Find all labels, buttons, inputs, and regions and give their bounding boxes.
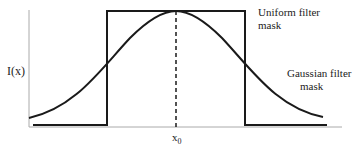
gaussian-label-line1: Gaussian filter bbox=[287, 67, 352, 79]
gaussian-label-line2: mask bbox=[300, 80, 324, 92]
uniform-filter-mask-curve bbox=[33, 11, 327, 125]
uniform-label-line1: Uniform filter bbox=[258, 6, 320, 18]
uniform-label-line2: mask bbox=[258, 19, 282, 31]
filter-mask-diagram: I(x) x0 Uniform filter mask Gaussian fil… bbox=[0, 0, 353, 156]
y-axis-label: I(x) bbox=[7, 64, 25, 78]
x0-label: x0 bbox=[172, 131, 182, 146]
x0-subscript: 0 bbox=[178, 137, 182, 146]
